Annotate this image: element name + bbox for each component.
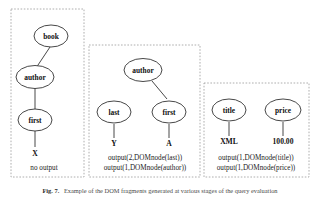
node-first-label: first	[28, 116, 42, 125]
leaf-a-value: A	[166, 139, 172, 148]
node-title: title	[212, 99, 246, 121]
leaf-xml-value: XML	[220, 137, 238, 146]
node-first-p2: first	[152, 101, 186, 123]
panel-2-output-line-1: output(2,DOMnode(last))	[108, 154, 183, 162]
panel-3-border	[204, 83, 309, 177]
panel-2-output-line-2: output(1,DOMnode(author))	[104, 164, 187, 172]
panel-2: author last first Y A output(2,DOMnode(l…	[89, 45, 200, 177]
edge-book-author	[36, 47, 50, 68]
leaf-y-value: Y	[111, 139, 117, 148]
node-title-label: title	[223, 106, 236, 115]
panel-3-output-line-2: output(1,DOMnode(price))	[217, 164, 296, 172]
node-last: last	[97, 101, 131, 123]
node-author: author	[16, 66, 54, 89]
caption-body: Example of the DOM fragments generated a…	[64, 187, 278, 194]
edge-author-first-p2	[152, 81, 167, 99]
node-first-p2-label: first	[162, 108, 176, 117]
node-author-p2-label: author	[132, 66, 154, 75]
node-book-label: book	[43, 32, 60, 41]
node-author-p2: author	[124, 59, 162, 82]
caption-line: Fig. 7. Example of the DOM fragments gen…	[42, 187, 278, 194]
node-last-label: last	[108, 108, 120, 117]
node-first: first	[18, 109, 52, 131]
panel-1-note: no output	[30, 164, 57, 172]
leaf-price-value: 100.00	[273, 137, 294, 146]
leaf-x-value: X	[32, 149, 38, 158]
node-author-label: author	[24, 73, 46, 82]
panel-1: book author first X no output	[11, 9, 84, 177]
figure-caption: Fig. 7. Example of the DOM fragments gen…	[42, 187, 278, 194]
panel-3-output-line-1: output(1,DOMnode(title))	[218, 154, 294, 162]
caption-prefix: Fig. 7.	[42, 187, 59, 194]
panel-3: title price XML 100.00 output(1,DOMnode(…	[204, 83, 309, 177]
node-price-label: price	[275, 106, 292, 115]
figure-container: book author first X no output	[0, 0, 319, 199]
node-book: book	[34, 25, 68, 47]
node-price: price	[265, 99, 301, 121]
